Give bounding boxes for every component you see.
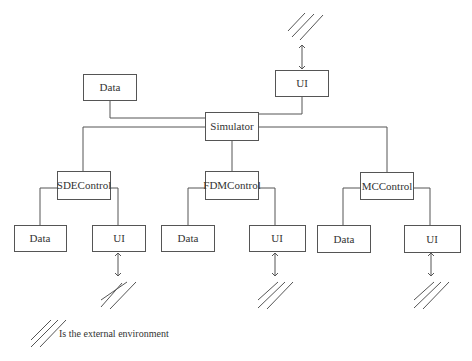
node-label: Data <box>100 81 121 93</box>
legend: Is the external environment <box>31 320 169 347</box>
node-label: UI <box>271 232 283 244</box>
node-label: UI <box>426 233 438 245</box>
node-label: FDMControl <box>203 179 260 191</box>
architecture-diagram: Data UI Simulator SDEControl FDMControl … <box>0 0 472 361</box>
node-sde-data: Data <box>15 226 67 252</box>
node-label: Data <box>178 232 199 244</box>
node-simulator: Simulator <box>206 113 259 141</box>
external-environment-hatch-fdm <box>258 282 293 309</box>
edge-top-ui-simulator <box>258 96 302 114</box>
edge-sde-data <box>40 188 57 225</box>
edge-fdm-data <box>188 188 205 225</box>
edge-mc-ui <box>413 188 430 225</box>
external-environment-hatch-mc <box>414 282 449 309</box>
edge-simulator-sdecontrol <box>83 127 205 171</box>
node-label: Simulator <box>210 120 254 132</box>
edge-sde-ui <box>110 188 118 225</box>
node-fdm-control: FDMControl <box>203 172 260 200</box>
node-mc-ui: UI <box>405 226 461 253</box>
node-label: UI <box>113 232 125 244</box>
node-label: Data <box>30 232 51 244</box>
node-mc-data: Data <box>318 226 371 253</box>
node-fdm-data: Data <box>162 226 215 252</box>
node-sde-ui: UI <box>93 226 146 252</box>
node-sde-control: SDEControl <box>57 172 111 200</box>
node-label: Data <box>334 233 355 245</box>
external-environment-hatch-sde <box>101 282 136 309</box>
node-top-data: Data <box>84 75 137 101</box>
edge-fdm-ui <box>258 188 275 225</box>
edge-mc-data <box>343 188 360 225</box>
node-label: UI <box>296 77 308 89</box>
edge-top-data-simulator <box>110 100 205 118</box>
node-fdm-ui: UI <box>250 226 306 252</box>
edge-simulator-mccontrol <box>258 127 387 172</box>
node-mc-control: MCControl <box>361 173 414 200</box>
node-label: MCControl <box>362 180 413 192</box>
node-label: SDEControl <box>57 179 111 191</box>
external-environment-hatch-top <box>288 13 323 40</box>
legend-text: Is the external environment <box>59 328 169 339</box>
node-top-ui: UI <box>276 71 329 97</box>
